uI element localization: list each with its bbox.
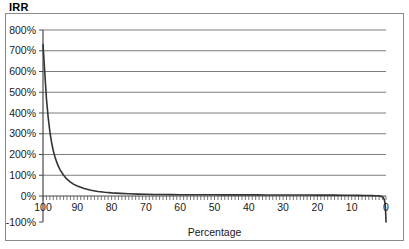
x-tick-label-80: 80 <box>106 201 118 213</box>
irr-chart-figure: IRR -100%0%100%200%300%400%500%600%700%8… <box>0 0 409 249</box>
y-tick-label-0: 0% <box>21 190 36 202</box>
x-tick-label-0: 0 <box>383 201 389 213</box>
x-tick-label-100: 100 <box>34 201 52 213</box>
x-tick-label-70: 70 <box>140 201 152 213</box>
x-tick-label-90: 90 <box>71 201 83 213</box>
y-tick-label-700: 700% <box>9 44 36 56</box>
gridlines-group <box>43 30 386 175</box>
y-tick-labels-group: -100%0%100%200%300%400%500%600%700%800% <box>6 24 36 228</box>
x-tick-label-60: 60 <box>174 201 186 213</box>
x-tick-label-20: 20 <box>312 201 324 213</box>
y-tick-label-200: 200% <box>9 148 36 160</box>
x-axis-title-group: Percentage <box>188 226 242 238</box>
y-tick-label-500: 500% <box>9 86 36 98</box>
y-tick-label-300: 300% <box>9 127 36 139</box>
x-tick-label-30: 30 <box>277 201 289 213</box>
x-minor-ticks-group <box>43 196 386 200</box>
x-tick-label-40: 40 <box>243 201 255 213</box>
x-tick-label-10: 10 <box>346 201 358 213</box>
y-tick-label-800: 800% <box>9 24 36 36</box>
chart-plot-svg: -100%0%100%200%300%400%500%600%700%800% … <box>0 0 409 249</box>
x-axis-title: Percentage <box>188 226 242 238</box>
y-tick-label-400: 400% <box>9 107 36 119</box>
x-tick-labels-group: 1009080706050403020100 <box>34 201 389 213</box>
y-tick-label-100: 100% <box>9 169 36 181</box>
y-tick-label-600: 600% <box>9 65 36 77</box>
y-tick-label--100: -100% <box>6 216 36 228</box>
axis-lines-group <box>43 30 386 222</box>
x-tick-label-50: 50 <box>209 201 221 213</box>
